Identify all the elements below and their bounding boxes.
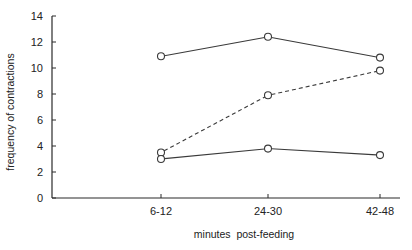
data-point-marker: [377, 54, 384, 61]
series-segment: [271, 37, 376, 57]
y-tick-label: 8: [37, 88, 43, 100]
x-tick-label: 24-30: [254, 205, 282, 217]
data-point-marker: [377, 67, 384, 74]
line-chart: 02468101214 6-1224-3042-48 frequency of …: [0, 0, 412, 250]
y-tick-label: 10: [31, 62, 43, 74]
data-point-marker: [265, 33, 272, 40]
series-segment: [164, 37, 264, 55]
y-axis: 02468101214: [31, 10, 56, 204]
y-tick-label: 4: [37, 140, 43, 152]
series-segment: [271, 71, 376, 94]
data-point-marker: [265, 92, 272, 99]
series-segment: [164, 97, 265, 151]
y-tick-label: 12: [31, 36, 43, 48]
series-lower-solid: [158, 145, 384, 162]
y-tick-label: 0: [37, 192, 43, 204]
y-tick-label: 6: [37, 114, 43, 126]
x-axis-title: minutes post-feeding: [194, 228, 295, 240]
data-point-marker: [158, 53, 165, 60]
x-tick-label: 42-48: [366, 205, 394, 217]
data-point-marker: [158, 149, 165, 156]
series-segment: [271, 149, 376, 155]
y-axis-title: frequency of contractions: [4, 53, 16, 170]
x-tick-label: 6-12: [150, 205, 172, 217]
data-point-marker: [377, 152, 384, 159]
series-dashed: [158, 67, 384, 156]
data-point-marker: [265, 145, 272, 152]
x-axis: 6-1224-3042-48: [52, 194, 400, 217]
series-segment: [164, 149, 264, 159]
y-tick-label: 2: [37, 166, 43, 178]
y-tick-label: 14: [31, 10, 43, 22]
series-group: [158, 33, 384, 162]
data-point-marker: [158, 156, 165, 163]
series-upper-solid: [158, 33, 384, 61]
